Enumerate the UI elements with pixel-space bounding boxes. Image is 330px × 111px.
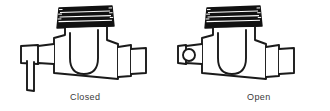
caption-open: Open	[247, 92, 271, 102]
ribbed-cap-open	[205, 6, 262, 28]
handle-lever-closed	[27, 61, 34, 91]
caption-closed: Closed	[70, 92, 100, 102]
outlet-pipe-closed	[131, 48, 146, 74]
outlet-collar-closed	[118, 45, 131, 77]
valve-view-closed	[21, 6, 146, 91]
valve-diagram-canvas	[0, 0, 330, 111]
handle-end-circle-open	[183, 49, 195, 61]
valve-diagram: Closed Open	[0, 0, 330, 111]
outlet-pipe-open	[279, 48, 294, 74]
valve-view-open	[178, 6, 294, 79]
ribbed-cap-closed	[57, 6, 114, 28]
ball-chamber-open	[218, 30, 246, 74]
outlet-collar-open	[266, 45, 279, 77]
ball-chamber-closed	[70, 30, 98, 74]
